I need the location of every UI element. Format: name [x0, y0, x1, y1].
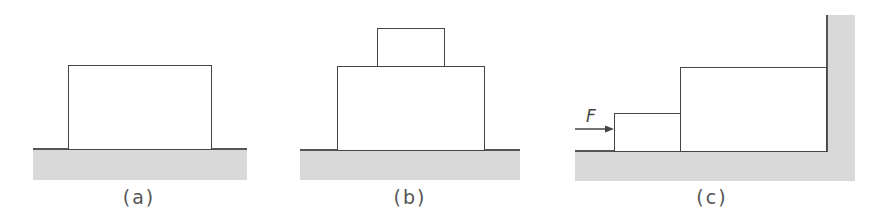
- small-block-c: [614, 113, 681, 152]
- ground-c: [575, 150, 855, 181]
- ground-b: [300, 149, 520, 180]
- top-block-b: [377, 28, 445, 67]
- bottom-block-b: [337, 66, 485, 151]
- force-arrow-icon: [574, 124, 616, 134]
- wall-c: [826, 15, 855, 152]
- caption-a: (a): [109, 186, 169, 208]
- caption-b: (b): [380, 186, 440, 208]
- force-label: F: [586, 106, 596, 126]
- caption-c: (c): [682, 186, 742, 208]
- ground-a: [33, 148, 247, 180]
- block-a: [68, 65, 212, 150]
- large-block-c: [680, 67, 827, 152]
